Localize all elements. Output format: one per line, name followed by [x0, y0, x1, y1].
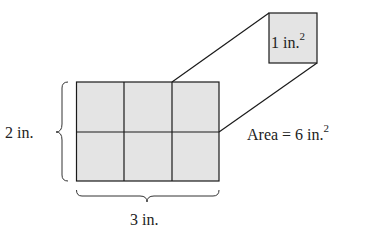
rectangle-grid — [77, 82, 220, 181]
area-label: Area = 6 in.2 — [247, 122, 329, 143]
connector-line-bottom — [219, 63, 317, 132]
height-label: 2 in. — [5, 124, 33, 141]
height-brace-icon — [56, 82, 68, 181]
area-diagram: 1 in.2 2 in. 3 in. Area = 6 in.2 — [0, 0, 377, 243]
connector-line-top — [172, 13, 269, 82]
width-brace-icon — [77, 190, 220, 202]
width-label: 3 in. — [130, 211, 158, 228]
